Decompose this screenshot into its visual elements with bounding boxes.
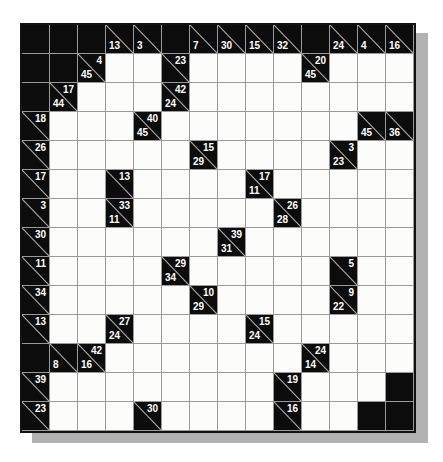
white-cell-r13-c10[interactable] bbox=[302, 402, 330, 431]
white-cell-r8-c6[interactable] bbox=[190, 257, 218, 286]
white-cell-r5-c1[interactable] bbox=[50, 170, 78, 199]
white-cell-r10-c7[interactable] bbox=[218, 315, 246, 344]
white-cell-r10-c9[interactable] bbox=[274, 315, 302, 344]
white-cell-r9-c8[interactable] bbox=[246, 286, 274, 315]
white-cell-r9-c9[interactable] bbox=[274, 286, 302, 315]
white-cell-r1-c13[interactable] bbox=[386, 54, 414, 83]
white-cell-r12-c4[interactable] bbox=[134, 373, 162, 402]
white-cell-r7-c10[interactable] bbox=[302, 228, 330, 257]
white-cell-r1-c9[interactable] bbox=[274, 54, 302, 83]
white-cell-r9-c5[interactable] bbox=[162, 286, 190, 315]
white-cell-r7-c5[interactable] bbox=[162, 228, 190, 257]
white-cell-r12-c12[interactable] bbox=[358, 373, 386, 402]
white-cell-r1-c12[interactable] bbox=[358, 54, 386, 83]
white-cell-r10-c12[interactable] bbox=[358, 315, 386, 344]
white-cell-r7-c12[interactable] bbox=[358, 228, 386, 257]
white-cell-r5-c6[interactable] bbox=[190, 170, 218, 199]
white-cell-r9-c12[interactable] bbox=[358, 286, 386, 315]
white-cell-r2-c13[interactable] bbox=[386, 83, 414, 112]
white-cell-r10-c1[interactable] bbox=[50, 315, 78, 344]
white-cell-r4-c5[interactable] bbox=[162, 141, 190, 170]
white-cell-r4-c10[interactable] bbox=[302, 141, 330, 170]
white-cell-r8-c2[interactable] bbox=[78, 257, 106, 286]
white-cell-r13-c3[interactable] bbox=[106, 402, 134, 431]
white-cell-r10-c10[interactable] bbox=[302, 315, 330, 344]
white-cell-r6-c7[interactable] bbox=[218, 199, 246, 228]
white-cell-r1-c4[interactable] bbox=[134, 54, 162, 83]
white-cell-r7-c11[interactable] bbox=[330, 228, 358, 257]
white-cell-r4-c12[interactable] bbox=[358, 141, 386, 170]
white-cell-r3-c2[interactable] bbox=[78, 112, 106, 141]
white-cell-r6-c11[interactable] bbox=[330, 199, 358, 228]
white-cell-r13-c11[interactable] bbox=[330, 402, 358, 431]
white-cell-r3-c8[interactable] bbox=[246, 112, 274, 141]
white-cell-r11-c7[interactable] bbox=[218, 344, 246, 373]
white-cell-r7-c3[interactable] bbox=[106, 228, 134, 257]
white-cell-r11-c4[interactable] bbox=[134, 344, 162, 373]
white-cell-r6-c8[interactable] bbox=[246, 199, 274, 228]
white-cell-r2-c9[interactable] bbox=[274, 83, 302, 112]
white-cell-r6-c6[interactable] bbox=[190, 199, 218, 228]
white-cell-r12-c1[interactable] bbox=[50, 373, 78, 402]
white-cell-r13-c6[interactable] bbox=[190, 402, 218, 431]
white-cell-r13-c8[interactable] bbox=[246, 402, 274, 431]
white-cell-r12-c5[interactable] bbox=[162, 373, 190, 402]
white-cell-r2-c3[interactable] bbox=[106, 83, 134, 112]
white-cell-r3-c1[interactable] bbox=[50, 112, 78, 141]
white-cell-r11-c6[interactable] bbox=[190, 344, 218, 373]
white-cell-r5-c5[interactable] bbox=[162, 170, 190, 199]
white-cell-r3-c10[interactable] bbox=[302, 112, 330, 141]
white-cell-r7-c4[interactable] bbox=[134, 228, 162, 257]
white-cell-r2-c7[interactable] bbox=[218, 83, 246, 112]
white-cell-r7-c1[interactable] bbox=[50, 228, 78, 257]
white-cell-r3-c3[interactable] bbox=[106, 112, 134, 141]
white-cell-r6-c2[interactable] bbox=[78, 199, 106, 228]
white-cell-r8-c8[interactable] bbox=[246, 257, 274, 286]
white-cell-r11-c5[interactable] bbox=[162, 344, 190, 373]
white-cell-r8-c9[interactable] bbox=[274, 257, 302, 286]
white-cell-r4-c1[interactable] bbox=[50, 141, 78, 170]
white-cell-r9-c3[interactable] bbox=[106, 286, 134, 315]
white-cell-r13-c2[interactable] bbox=[78, 402, 106, 431]
white-cell-r11-c12[interactable] bbox=[358, 344, 386, 373]
white-cell-r7-c8[interactable] bbox=[246, 228, 274, 257]
white-cell-r2-c2[interactable] bbox=[78, 83, 106, 112]
white-cell-r4-c7[interactable] bbox=[218, 141, 246, 170]
white-cell-r10-c5[interactable] bbox=[162, 315, 190, 344]
white-cell-r2-c12[interactable] bbox=[358, 83, 386, 112]
white-cell-r6-c4[interactable] bbox=[134, 199, 162, 228]
white-cell-r13-c7[interactable] bbox=[218, 402, 246, 431]
white-cell-r8-c13[interactable] bbox=[386, 257, 414, 286]
white-cell-r5-c4[interactable] bbox=[134, 170, 162, 199]
white-cell-r13-c5[interactable] bbox=[162, 402, 190, 431]
white-cell-r12-c7[interactable] bbox=[218, 373, 246, 402]
white-cell-r3-c5[interactable] bbox=[162, 112, 190, 141]
white-cell-r12-c8[interactable] bbox=[246, 373, 274, 402]
white-cell-r3-c7[interactable] bbox=[218, 112, 246, 141]
white-cell-r9-c13[interactable] bbox=[386, 286, 414, 315]
white-cell-r12-c11[interactable] bbox=[330, 373, 358, 402]
white-cell-r5-c7[interactable] bbox=[218, 170, 246, 199]
white-cell-r2-c4[interactable] bbox=[134, 83, 162, 112]
white-cell-r8-c7[interactable] bbox=[218, 257, 246, 286]
white-cell-r12-c10[interactable] bbox=[302, 373, 330, 402]
white-cell-r4-c2[interactable] bbox=[78, 141, 106, 170]
white-cell-r8-c12[interactable] bbox=[358, 257, 386, 286]
white-cell-r7-c2[interactable] bbox=[78, 228, 106, 257]
white-cell-r6-c13[interactable] bbox=[386, 199, 414, 228]
white-cell-r5-c12[interactable] bbox=[358, 170, 386, 199]
white-cell-r11-c13[interactable] bbox=[386, 344, 414, 373]
white-cell-r3-c11[interactable] bbox=[330, 112, 358, 141]
white-cell-r7-c9[interactable] bbox=[274, 228, 302, 257]
white-cell-r4-c4[interactable] bbox=[134, 141, 162, 170]
white-cell-r4-c9[interactable] bbox=[274, 141, 302, 170]
white-cell-r5-c9[interactable] bbox=[274, 170, 302, 199]
white-cell-r7-c13[interactable] bbox=[386, 228, 414, 257]
white-cell-r10-c4[interactable] bbox=[134, 315, 162, 344]
white-cell-r5-c11[interactable] bbox=[330, 170, 358, 199]
white-cell-r6-c5[interactable] bbox=[162, 199, 190, 228]
white-cell-r12-c3[interactable] bbox=[106, 373, 134, 402]
white-cell-r9-c1[interactable] bbox=[50, 286, 78, 315]
white-cell-r3-c9[interactable] bbox=[274, 112, 302, 141]
white-cell-r10-c11[interactable] bbox=[330, 315, 358, 344]
